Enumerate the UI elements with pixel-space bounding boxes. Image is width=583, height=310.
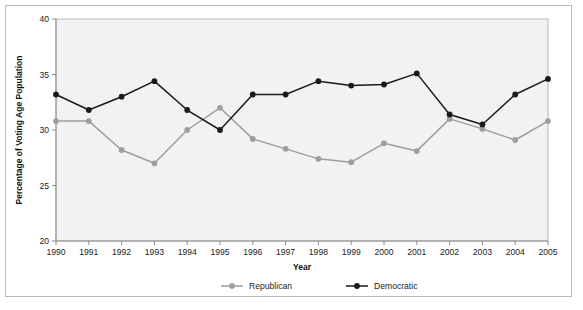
data-point bbox=[381, 140, 387, 146]
data-point bbox=[184, 127, 190, 133]
data-point bbox=[184, 107, 190, 113]
legend-marker-icon bbox=[354, 283, 360, 289]
data-point bbox=[381, 82, 387, 88]
data-point bbox=[119, 94, 125, 100]
x-tick-label: 1991 bbox=[79, 247, 98, 257]
data-point bbox=[447, 112, 453, 118]
data-point bbox=[86, 118, 92, 124]
data-point bbox=[480, 122, 486, 128]
data-point bbox=[53, 118, 59, 124]
y-tick-label: 35 bbox=[39, 70, 49, 80]
y-tick-label: 30 bbox=[39, 125, 49, 135]
data-point bbox=[86, 107, 92, 113]
x-tick-label: 2000 bbox=[374, 247, 393, 257]
x-tick-label: 2004 bbox=[506, 247, 525, 257]
data-point bbox=[348, 83, 354, 89]
x-tick-label: 2002 bbox=[440, 247, 459, 257]
y-axis-ticks: 2025303540 bbox=[39, 14, 56, 246]
x-axis-ticks: 1990199119921993199419951996199719981999… bbox=[46, 241, 557, 257]
chart-legend: RepublicanDemocratic bbox=[221, 281, 418, 291]
x-tick-label: 1992 bbox=[112, 247, 131, 257]
y-tick-label: 20 bbox=[39, 236, 49, 246]
x-tick-label: 1995 bbox=[210, 247, 229, 257]
data-point bbox=[250, 92, 256, 98]
data-point bbox=[217, 105, 223, 111]
y-axis-title: Percentage of Voting Age Population bbox=[14, 56, 24, 205]
data-point bbox=[316, 156, 322, 162]
x-tick-label: 1993 bbox=[145, 247, 164, 257]
data-point bbox=[545, 118, 551, 124]
x-tick-label: 1990 bbox=[46, 247, 65, 257]
line-chart: 2025303540 19901991199219931994199519961… bbox=[6, 6, 571, 296]
y-tick-label: 40 bbox=[39, 14, 49, 24]
x-tick-label: 1997 bbox=[276, 247, 295, 257]
data-point bbox=[53, 92, 59, 98]
x-tick-label: 1994 bbox=[178, 247, 197, 257]
data-point bbox=[348, 159, 354, 165]
data-point bbox=[283, 92, 289, 98]
legend-label: Republican bbox=[249, 281, 292, 291]
data-point bbox=[283, 146, 289, 152]
data-point bbox=[217, 127, 223, 133]
chart-figure: 2025303540 19901991199219931994199519961… bbox=[5, 5, 572, 297]
data-point bbox=[545, 76, 551, 82]
x-tick-label: 1996 bbox=[243, 247, 262, 257]
data-point bbox=[250, 136, 256, 142]
data-point bbox=[512, 92, 518, 98]
x-tick-label: 1998 bbox=[309, 247, 328, 257]
x-axis-title: Year bbox=[293, 262, 312, 272]
data-point bbox=[316, 78, 322, 84]
data-point bbox=[414, 70, 420, 76]
x-tick-label: 2005 bbox=[538, 247, 557, 257]
legend-item-republican[interactable]: Republican bbox=[221, 281, 292, 291]
data-point bbox=[512, 137, 518, 143]
x-tick-label: 1999 bbox=[342, 247, 361, 257]
legend-item-democratic[interactable]: Democratic bbox=[346, 281, 418, 291]
plot-area-background bbox=[56, 19, 548, 241]
x-tick-label: 2003 bbox=[473, 247, 492, 257]
data-point bbox=[119, 147, 125, 153]
data-point bbox=[152, 160, 158, 166]
data-point bbox=[414, 148, 420, 154]
data-point bbox=[152, 78, 158, 84]
x-tick-label: 2001 bbox=[407, 247, 426, 257]
y-tick-label: 25 bbox=[39, 181, 49, 191]
legend-label: Democratic bbox=[374, 281, 418, 291]
legend-marker-icon bbox=[229, 283, 235, 289]
